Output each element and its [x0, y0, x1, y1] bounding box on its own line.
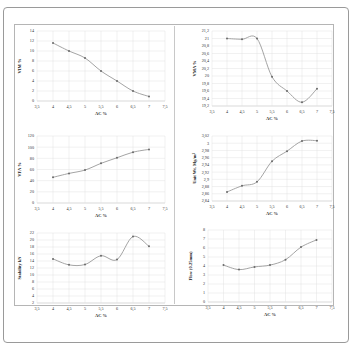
- x-tick-label: 4: [222, 305, 225, 310]
- data-point-marker: [316, 239, 318, 241]
- y-tick-label: 8: [203, 227, 205, 232]
- y-tick-label: 5: [203, 254, 205, 259]
- y-tick-label: 6: [203, 245, 205, 250]
- y-tick-label: 3: [203, 272, 205, 277]
- y-tick-label: 0: [203, 299, 205, 304]
- x-tick-label: 5,5: [267, 305, 272, 311]
- x-axis-label: AC %: [264, 312, 277, 317]
- data-point-marker: [285, 259, 287, 261]
- data-point-marker: [254, 266, 256, 268]
- x-tick-label: 7,5: [329, 305, 334, 311]
- x-tick-label: 3,5: [205, 305, 210, 311]
- y-tick-label: 2: [203, 281, 205, 286]
- x-tick-label: 5: [253, 305, 255, 310]
- data-point-marker: [300, 246, 302, 248]
- x-tick-label: 6: [284, 305, 286, 310]
- data-point-marker: [269, 264, 271, 266]
- chart-flow: 0123456783,544,555,566,577,5AC %Flow (0.…: [0, 0, 351, 345]
- x-tick-label: 6,5: [298, 305, 303, 311]
- x-tick-label: 4,5: [236, 305, 241, 311]
- y-tick-label: 4: [203, 263, 206, 268]
- data-point-marker: [238, 269, 240, 271]
- y-tick-label: 7: [203, 236, 205, 241]
- x-tick-label: 7: [315, 305, 317, 310]
- data-point-marker: [223, 264, 225, 266]
- y-tick-label: 1: [203, 290, 205, 295]
- y-axis-label: Flow (0.25mm): [188, 251, 193, 280]
